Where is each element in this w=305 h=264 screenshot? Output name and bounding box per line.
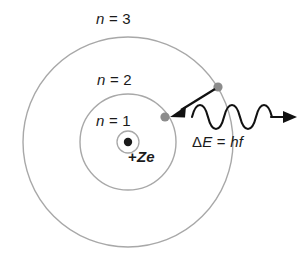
label-photon-energy-delta: Δ (192, 133, 202, 150)
photon-emission (192, 105, 297, 129)
label-nucleus-charge: +Ze (128, 148, 155, 165)
label-shell-n1-symbol: n (96, 112, 105, 129)
label-shell-n3-symbol: n (96, 10, 105, 27)
label-shell-n3-relation: = (105, 10, 123, 27)
label-shell-n1-value: 1 (122, 112, 131, 129)
label-shell-n2-symbol: n (97, 71, 106, 88)
label-shell-n2-value: 2 (123, 71, 132, 88)
label-photon-energy: ΔE = hf (192, 133, 243, 150)
photon-arrow-head (283, 111, 297, 123)
label-nucleus-charge-symbol: Ze (137, 148, 155, 165)
label-shell-n3: n = 3 (96, 10, 131, 27)
label-nucleus-charge-sign: + (128, 148, 137, 165)
nucleus-core-dot (124, 138, 132, 146)
transition-arrow-shaft (181, 89, 215, 110)
label-photon-energy-relation: = (212, 133, 230, 150)
bohr-model-canvas (0, 0, 305, 264)
label-shell-n1: n = 1 (96, 112, 131, 129)
label-shell-n1-relation: = (105, 112, 123, 129)
label-photon-energy-e: E (202, 133, 212, 150)
label-photon-energy-frequency: f (239, 133, 243, 150)
label-shell-n2-relation: = (106, 71, 124, 88)
label-shell-n3-value: 3 (122, 10, 131, 27)
electron-dot-inner (160, 112, 169, 121)
bohr-model-diagram: n = 3 n = 2 n = 1 +Ze ΔE = hf (0, 0, 305, 264)
label-shell-n2: n = 2 (97, 71, 132, 88)
label-photon-energy-planck: h (230, 133, 239, 150)
transition-arrow-head (170, 106, 186, 118)
